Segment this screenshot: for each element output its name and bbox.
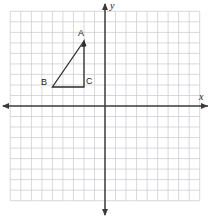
vertex-label-b: B: [41, 78, 47, 87]
triangle-abc: [52, 40, 86, 87]
y-axis-arrow-down: [102, 209, 108, 216]
vertex-label-a: A: [78, 29, 84, 38]
y-axis-arrow-up: [102, 3, 108, 10]
vertex-label-c: C: [86, 77, 93, 86]
graph-canvas: [0, 0, 211, 222]
y-axis: [102, 3, 108, 216]
x-axis-label: x: [199, 92, 203, 102]
x-axis-arrow-left: [2, 103, 9, 109]
y-axis-label: y: [110, 1, 114, 11]
x-axis-arrow-right: [201, 103, 208, 109]
coordinate-grid-figure: A B C x y: [0, 0, 211, 222]
